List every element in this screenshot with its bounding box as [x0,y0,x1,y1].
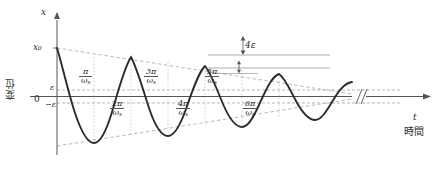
tick-label-4pi-numerator: 4π [176,100,190,108]
damped-vibration-chart [0,0,438,184]
x-axis-symbol: t [413,113,417,122]
axis-break-slash-1 [356,89,362,104]
x-axis-arrowhead [423,94,431,100]
tick-label-6pi-denominator: ωs [243,108,257,117]
amplitude-decrement-label: 4ε [245,41,256,50]
tick-label-6pi-numerator: 6π [243,100,257,108]
tick-label-pi: π ωs [79,68,92,86]
tick-label-pi-numerator: π [79,68,92,76]
epsilon-lower-label: −ε [45,101,56,109]
y-axis-arrowhead [54,12,60,19]
tick-label-3pi: 3π ωs [144,68,158,86]
annotation-4eps [208,36,330,68]
epsilon-upper-label: ε [50,84,54,92]
annotation-4eps-small-arrowhead-down [237,70,241,74]
zero-label: 0 [34,95,40,104]
tick-label-pi-denominator: ωs [79,76,92,85]
tick-label-5pi: 5π ωs [205,68,219,86]
tick-label-3pi-denominator: ωs [144,76,158,85]
tick-label-3pi-numerator: 3π [144,68,158,76]
axis-break-mark [356,89,367,104]
annotation-4eps-small-arrowhead-up [237,61,241,65]
initial-displacement-label: x₀ [33,43,42,52]
tick-label-5pi-denominator: ωs [205,76,219,85]
x-axis-label: 時間 [404,127,424,137]
displacement-curve [57,48,352,143]
tick-label-4pi: 4π ωs [176,100,190,118]
tick-label-2pi: 2π ωs [110,100,124,118]
y-axis-symbol: x [41,8,46,17]
annotation-4eps-arrowhead-down [241,50,246,55]
y-axis-label: 変位 [6,78,16,100]
tick-label-2pi-numerator: 2π [110,100,124,108]
tick-label-5pi-numerator: 5π [205,68,219,76]
annotation-4eps-small [214,61,258,74]
tick-label-2pi-denominator: ωs [110,108,124,117]
tick-label-6pi: 6π ωs [243,100,257,118]
tick-label-4pi-denominator: ωs [176,108,190,117]
